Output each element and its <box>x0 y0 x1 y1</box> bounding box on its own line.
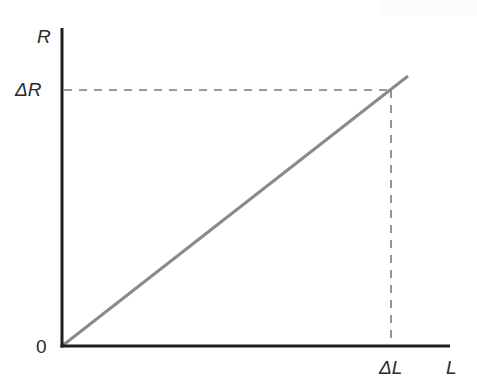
origin-label: 0 <box>36 337 47 356</box>
delta-r-label: ΔR <box>15 80 41 99</box>
x-axis-label: L <box>446 358 457 377</box>
linear-relation-diagram <box>0 0 477 392</box>
delta-l-label: ΔL <box>379 358 402 377</box>
y-axis-label: R <box>37 27 51 46</box>
r-vs-l-line <box>62 76 408 346</box>
